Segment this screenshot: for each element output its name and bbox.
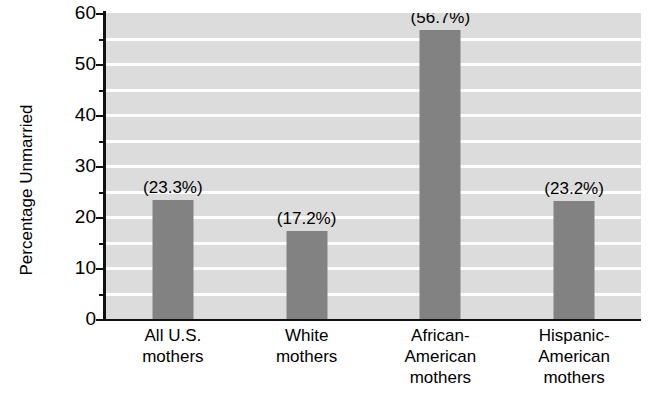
category-label-line: White bbox=[240, 325, 374, 346]
x-axis-category-label: African-Americanmothers bbox=[374, 325, 508, 388]
bar-value-label: (23.3%) bbox=[143, 178, 203, 197]
y-axis-tick-label: 20 bbox=[34, 207, 96, 226]
category-label-line: Hispanic- bbox=[507, 325, 641, 346]
bar-value-label: (56.7%) bbox=[411, 13, 471, 27]
category-label-line: African- bbox=[374, 325, 508, 346]
bar bbox=[420, 30, 461, 319]
x-axis-category-label: Hispanic-Americanmothers bbox=[507, 325, 641, 388]
y-axis-tick-label: 60 bbox=[34, 3, 96, 22]
category-label-line: American bbox=[374, 346, 508, 367]
bar-group: (23.3%) bbox=[106, 13, 240, 319]
bar bbox=[286, 231, 327, 319]
category-label-line: All U.S. bbox=[106, 325, 240, 346]
x-axis-category-labels: All U.S.mothersWhitemothersAfrican-Ameri… bbox=[106, 325, 641, 403]
category-label-line: American bbox=[507, 346, 641, 367]
x-axis-category-label: Whitemothers bbox=[240, 325, 374, 367]
bar-value-label: (17.2%) bbox=[277, 209, 337, 228]
category-label-line: mothers bbox=[374, 367, 508, 388]
y-axis-tick-labels: 0102030405060 bbox=[34, 13, 96, 319]
bars-layer: (23.3%)(17.2%)(56.7%)(23.2%) bbox=[106, 13, 641, 319]
x-axis-category-label: All U.S.mothers bbox=[106, 325, 240, 367]
bar-value-label: (23.2%) bbox=[544, 179, 604, 198]
y-axis-tick-label: 30 bbox=[34, 156, 96, 175]
bar bbox=[554, 201, 595, 319]
category-label-line: mothers bbox=[240, 346, 374, 367]
plot-area: (23.3%)(17.2%)(56.7%)(23.2%) bbox=[106, 13, 641, 319]
y-axis-tick-label: 50 bbox=[34, 54, 96, 73]
bar bbox=[152, 200, 193, 319]
bar-group: (56.7%) bbox=[374, 13, 508, 319]
bar-chart: Percentage Unmarried 0102030405060 (23.3… bbox=[0, 0, 649, 405]
y-axis-tick-label: 10 bbox=[34, 258, 96, 277]
y-axis-tick-label: 0 bbox=[34, 309, 96, 328]
bar-group: (17.2%) bbox=[240, 13, 374, 319]
category-label-line: mothers bbox=[106, 346, 240, 367]
category-label-line: mothers bbox=[507, 367, 641, 388]
bar-group: (23.2%) bbox=[507, 13, 641, 319]
y-axis-tick-label: 40 bbox=[34, 105, 96, 124]
